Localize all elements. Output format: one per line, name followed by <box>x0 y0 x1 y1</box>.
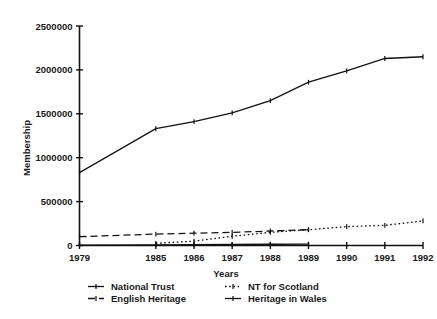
x-tick-label: 1992 <box>412 252 433 263</box>
y-tick-label: 500000 <box>41 196 73 207</box>
x-tick-label: 1991 <box>374 252 396 263</box>
y-axis-title: Membership <box>21 120 32 176</box>
membership-line-chart: 05000001000000150000020000002500000 1979… <box>0 0 437 319</box>
x-axis-title: Years <box>213 268 238 279</box>
y-tick-label: 1000000 <box>36 152 73 163</box>
x-tick-label: 1989 <box>298 252 319 263</box>
legend-label: National Trust <box>111 281 175 292</box>
x-tick-label: 1986 <box>183 252 204 263</box>
y-tick-label: 2500000 <box>36 21 73 32</box>
legend-label: NT for Scotland <box>248 281 319 292</box>
y-tick-label: 2000000 <box>36 64 73 75</box>
y-tick-label: 0 <box>67 240 72 251</box>
x-tick-label: 1990 <box>336 252 357 263</box>
legend-label: English Heritage <box>111 293 186 304</box>
x-tick-label: 1988 <box>260 252 281 263</box>
x-tick-label: 1985 <box>145 252 167 263</box>
x-tick-label: 1987 <box>222 252 243 263</box>
y-tick-label: 1500000 <box>36 108 73 119</box>
x-tick-label: 1979 <box>69 252 90 263</box>
legend-label: Heritage in Wales <box>248 293 327 304</box>
chart-svg: 05000001000000150000020000002500000 1979… <box>0 0 437 319</box>
